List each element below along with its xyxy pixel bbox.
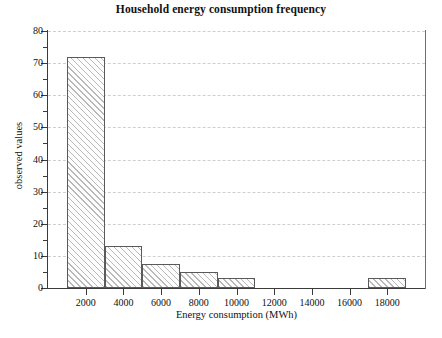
y-tick-minor <box>43 79 48 80</box>
x-tick <box>123 288 124 295</box>
bar-series <box>0 0 442 338</box>
y-tick-minor <box>43 143 48 144</box>
y-tick-label: 20 <box>3 219 43 229</box>
histogram-bar <box>218 278 256 288</box>
y-tick-minor <box>43 111 48 112</box>
y-tick-minor <box>43 240 48 241</box>
y-tick-label: 70 <box>3 58 43 68</box>
x-axis-label: Energy consumption (MWh) <box>48 309 425 320</box>
histogram-bar <box>105 246 143 288</box>
x-tick <box>199 288 200 295</box>
y-tick-minor <box>43 47 48 48</box>
y-tick-minor <box>43 272 48 273</box>
y-tick-label: 50 <box>3 122 43 132</box>
y-tick-label: 60 <box>3 90 43 100</box>
histogram-bar <box>67 57 105 288</box>
x-tick <box>312 288 313 295</box>
y-tick-label: 10 <box>3 251 43 261</box>
x-tick <box>237 288 238 295</box>
histogram-bar <box>142 264 180 288</box>
x-tick-label: 18000 <box>357 297 417 308</box>
y-tick-label: 40 <box>3 155 43 165</box>
x-tick <box>387 288 388 295</box>
histogram-bar <box>180 272 218 288</box>
x-tick <box>86 288 87 295</box>
x-tick <box>161 288 162 295</box>
chart-figure: Household energy consumption frequency E… <box>0 0 442 338</box>
x-tick <box>350 288 351 295</box>
y-tick-minor <box>43 208 48 209</box>
y-tick-label: 30 <box>3 187 43 197</box>
histogram-bar <box>368 278 406 288</box>
y-tick-label: 80 <box>3 26 43 36</box>
y-tick-minor <box>43 176 48 177</box>
x-tick <box>274 288 275 295</box>
y-tick-label: 0 <box>3 283 43 293</box>
